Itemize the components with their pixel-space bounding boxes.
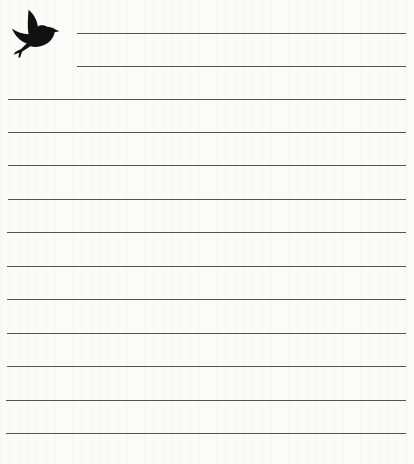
body-line-10: [6, 400, 406, 401]
bird-icon: [8, 8, 64, 64]
lined-paper: [0, 0, 414, 464]
body-line-4: [8, 199, 406, 200]
body-line-7: [7, 299, 406, 300]
body-line-2: [8, 132, 406, 133]
body-line-1: [8, 99, 406, 100]
body-line-3: [8, 165, 406, 166]
body-line-6: [7, 266, 406, 267]
body-line-11: [6, 433, 406, 434]
body-line-5: [7, 232, 406, 233]
header-line-2: [77, 66, 406, 67]
body-line-8: [7, 333, 406, 334]
header-line-1: [77, 33, 406, 34]
body-line-9: [7, 366, 406, 367]
